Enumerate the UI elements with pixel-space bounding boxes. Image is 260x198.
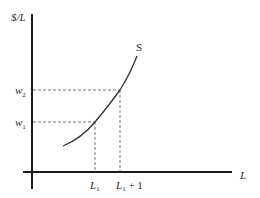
supply-curve <box>63 56 137 146</box>
L1-plus-1-label: L1 + 1 <box>115 179 143 193</box>
w1-label: w1 <box>15 116 26 131</box>
L1-label: L1 <box>89 179 100 193</box>
y-axis-label: $/L <box>11 11 26 23</box>
labor-supply-diagram: $/L L S w2 w1 L1 L1 + 1 <box>0 0 260 198</box>
w2-label: w2 <box>15 84 26 99</box>
x-axis-label: L <box>239 169 246 181</box>
curve-label: S <box>136 41 142 53</box>
